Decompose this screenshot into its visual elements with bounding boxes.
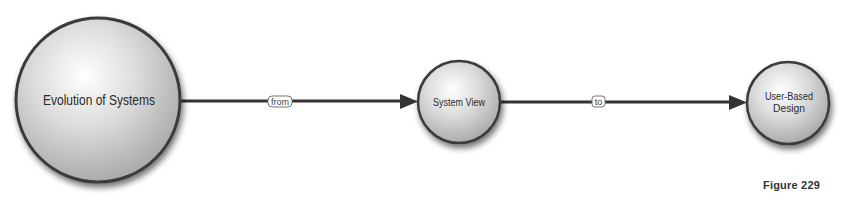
concept-map: from to Evolution of Systems System View… — [0, 0, 849, 209]
node-label-line-1: User-Based — [765, 91, 813, 102]
edge-label-to: to — [595, 97, 603, 107]
figure-caption: Figure 229 — [763, 179, 820, 191]
node-label-line-2: Design — [773, 103, 805, 114]
node-evolution-of-systems[interactable]: Evolution of Systems — [16, 18, 180, 182]
arrowhead-icon — [400, 94, 418, 109]
edge-label-from: from — [271, 97, 289, 107]
arrowhead-icon — [729, 95, 747, 110]
edge-system-view-to-user-based-design: to — [500, 95, 747, 110]
node-label: System View — [433, 97, 486, 108]
node-label: Evolution of Systems — [43, 92, 155, 108]
edge-evolution-to-system-view: from — [180, 94, 418, 109]
node-user-based-design[interactable]: User-Based Design — [747, 62, 829, 144]
node-system-view[interactable]: System View — [418, 61, 500, 143]
